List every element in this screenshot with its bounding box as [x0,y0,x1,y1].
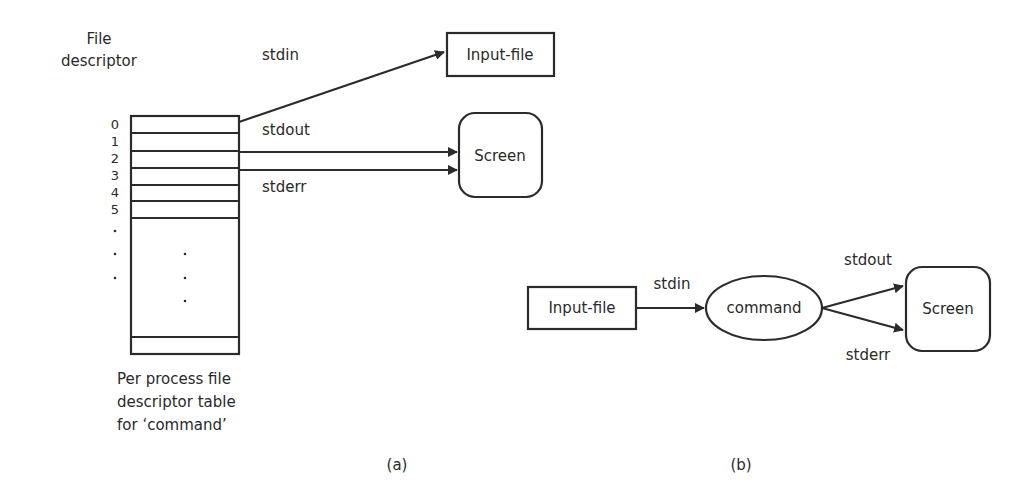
io-redirection-diagram: File descriptor 0 1 2 3 4 5 [0,0,1031,501]
input-file-label-b: Input-file [548,299,615,317]
stderr-label: stderr [262,178,307,196]
stderr-label-b: stderr [846,346,891,364]
table-caption-line1: Per process file [117,370,231,388]
stdout-label: stdout [262,121,310,139]
ellipsis-dot [184,300,187,303]
ellipsis-dot [114,253,117,256]
stdout-label-b: stdout [844,251,892,269]
fd-label-1: 1 [111,134,119,149]
fd-label-4: 4 [111,185,119,200]
panel-b-caption: (b) [730,456,751,474]
panel-b: Input-file stdin command stdout stderr S… [528,251,990,474]
ellipsis-dot [184,277,187,280]
ellipsis-dot [114,277,117,280]
fd-label-5: 5 [111,202,119,217]
table-caption-line2: descriptor table [117,393,236,411]
fd-table [131,116,239,354]
stdin-label-b: stdin [654,275,691,293]
fd-heading-line2: descriptor [61,52,138,70]
table-caption-line3: for ‘command’ [117,416,227,434]
fd-label-0: 0 [111,117,119,132]
fd-heading-line1: File [86,30,111,48]
fd-label-3: 3 [111,168,119,183]
ellipsis-dot [114,230,117,233]
input-file-label: Input-file [466,46,533,64]
stdout-arrow-b [822,286,903,308]
stdin-label: stdin [262,46,299,64]
command-label: command [727,299,802,317]
fd-label-2: 2 [111,151,119,166]
stderr-arrow-b [822,308,903,330]
ellipsis-dot [184,253,187,256]
screen-label-b: Screen [922,300,974,318]
fd-index-labels: 0 1 2 3 4 5 [111,117,119,279]
screen-label: Screen [474,147,526,165]
panel-a-caption: (a) [387,456,408,474]
panel-a: File descriptor 0 1 2 3 4 5 [61,30,554,474]
